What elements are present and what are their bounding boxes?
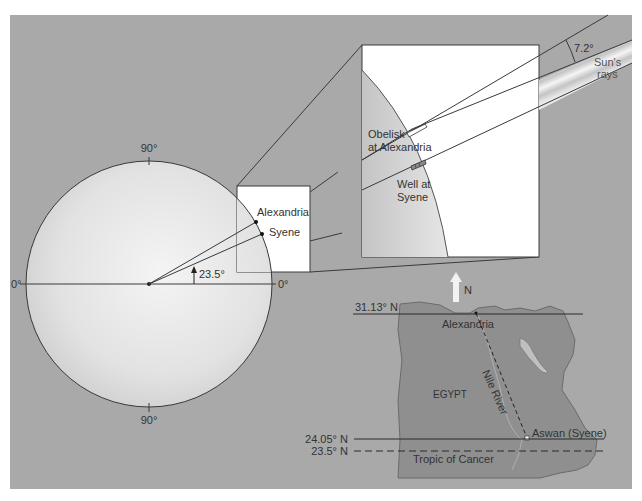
egypt-label: EGYPT: [433, 389, 467, 400]
well-label-line1: Well at: [397, 178, 430, 190]
alexandria-label: Alexandria: [257, 206, 310, 218]
latitude-south-label: 24.05° N: [305, 433, 348, 445]
aswan-label: Aswan (Syene): [532, 427, 607, 439]
angle-23-5-label: 23.5°: [199, 268, 225, 280]
eratosthenes-diagram: 90° 90° 0° 0° 23.5° Alexandria Syene Obe…: [0, 0, 642, 501]
alexandria-map-label: Alexandria: [442, 318, 495, 330]
well-label-line2: Syene: [397, 191, 428, 203]
label-90-top: 90°: [141, 142, 158, 154]
label-90-bottom: 90°: [141, 414, 158, 426]
sun-rays-label-line2: rays: [597, 68, 618, 80]
syene-dot: [260, 232, 264, 236]
latitude-north-label: 31.13° N: [355, 301, 398, 313]
north-label: N: [464, 284, 472, 296]
obelisk-label-line1: Obelisk: [368, 128, 405, 140]
tropic-latitude-label: 23.5° N: [311, 445, 348, 457]
label-0-right: 0°: [278, 278, 289, 290]
label-0-left: 0°: [11, 278, 22, 290]
sun-rays-label-line1: Sun's: [594, 56, 622, 68]
angle-7-2-label: 7.2°: [574, 42, 594, 54]
tropic-of-cancer-label: Tropic of Cancer: [413, 453, 494, 465]
obelisk-label-line2: at Alexandria: [368, 141, 432, 153]
alexandria-dot: [254, 220, 258, 224]
syene-label: Syene: [269, 226, 300, 238]
